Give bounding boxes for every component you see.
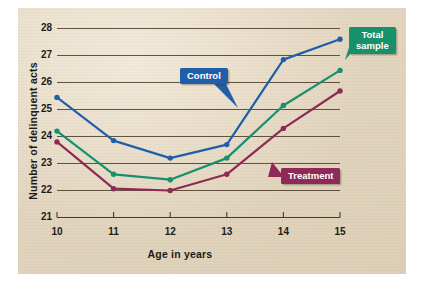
x-axis-title: Age in years <box>0 248 360 260</box>
x-tick-label-10: 10 <box>45 226 69 237</box>
series-total-sample <box>54 68 342 183</box>
gridlines <box>57 29 340 191</box>
x-tick-label-15: 15 <box>328 226 352 237</box>
callout-total-sample[interactable]: Total sample <box>349 27 396 54</box>
x-tick-label-13: 13 <box>215 226 239 237</box>
chart-figure: 28 27 26 25 24 23 22 21 10 11 12 13 14 1… <box>0 0 424 293</box>
x-tick-label-12: 12 <box>158 226 182 237</box>
x-tick-label-14: 14 <box>271 226 295 237</box>
x-axis <box>57 212 340 218</box>
callout-control-pointer <box>214 84 238 108</box>
series-control-line <box>57 39 340 158</box>
x-tick-label-11: 11 <box>102 226 126 237</box>
y-axis-title: Number of delinquent acts <box>27 36 39 226</box>
series-total-sample-markers <box>54 68 342 183</box>
callout-control[interactable]: Control <box>180 68 228 84</box>
callout-treatment[interactable]: Treatment <box>281 168 340 184</box>
y-tick-label-28: 28 <box>30 22 52 33</box>
